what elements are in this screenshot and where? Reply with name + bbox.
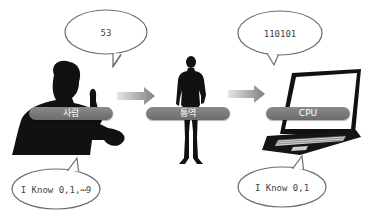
node-label-translator: 통역 [146,107,230,120]
bubble-text-binary: 110101 [264,29,297,39]
arrow-right-icon [228,85,265,103]
speech-bubble-person-top [65,10,147,67]
speech-bubble-cpu-bottom [238,156,326,207]
speech-bubble-person-bottom [12,158,100,209]
diagram-canvas: 53 110101 I Know 0,1,⋯9 I Know 0,1 사람 통역… [0,0,366,224]
bubble-text-person-knows: I Know 0,1,⋯9 [21,185,91,195]
bubble-text-decimal: 53 [101,28,112,38]
node-label-cpu: CPU [266,107,350,120]
bubble-text-cpu-knows: I Know 0,1 [255,183,309,193]
node-label-person: 사람 [29,107,113,120]
arrow-right-icon [117,87,155,105]
